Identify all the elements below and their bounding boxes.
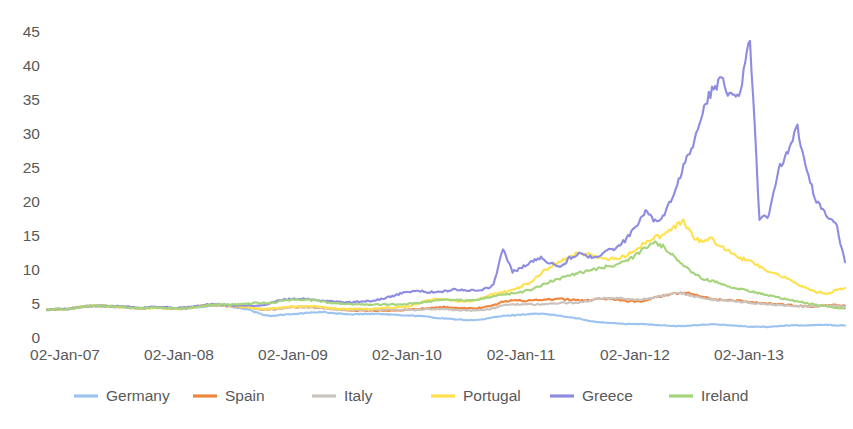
legend-label-greece[interactable]: Greece (582, 387, 633, 404)
x-axis-tick-label: 02-Jan-11 (487, 346, 556, 363)
x-axis-tick-label: 02-Jan-13 (714, 346, 784, 363)
y-axis-tick-label: 45 (23, 23, 40, 40)
legend-label-germany[interactable]: Germany (106, 387, 170, 404)
legend-label-spain[interactable]: Spain (225, 387, 265, 404)
legend-label-italy[interactable]: Italy (344, 387, 373, 404)
y-axis-tick-label: 25 (23, 159, 40, 176)
y-axis-tick-label: 10 (23, 261, 41, 278)
y-axis: 051015202530354045 (23, 23, 41, 346)
x-axis-tick-label: 02-Jan-07 (30, 346, 100, 363)
y-axis-tick-label: 15 (23, 227, 40, 244)
x-axis-tick-label: 02-Jan-10 (372, 346, 442, 363)
chart-canvas: 051015202530354045 02-Jan-0702-Jan-0802-… (0, 0, 853, 429)
series-lines (47, 41, 845, 327)
y-axis-tick-label: 30 (23, 125, 41, 142)
x-axis: 02-Jan-0702-Jan-0802-Jan-0902-Jan-1002-J… (30, 346, 784, 363)
y-axis-tick-label: 20 (23, 193, 41, 210)
y-axis-tick-label: 0 (31, 329, 40, 346)
series-line-portugal (47, 219, 845, 310)
line-chart: 051015202530354045 02-Jan-0702-Jan-0802-… (0, 0, 853, 429)
y-axis-tick-label: 40 (23, 57, 41, 74)
y-axis-tick-label: 35 (23, 91, 40, 108)
chart-legend: GermanySpainItalyPortugalGreeceIreland (74, 387, 748, 404)
legend-label-ireland[interactable]: Ireland (701, 387, 748, 404)
series-line-greece (47, 41, 845, 310)
y-axis-tick-label: 5 (31, 295, 40, 312)
legend-label-portugal[interactable]: Portugal (463, 387, 521, 404)
x-axis-tick-label: 02-Jan-09 (258, 346, 328, 363)
x-axis-tick-label: 02-Jan-08 (144, 346, 214, 363)
x-axis-tick-label: 02-Jan-12 (600, 346, 670, 363)
